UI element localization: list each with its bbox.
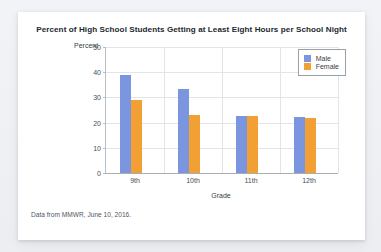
bar-female-10th[interactable] — [189, 115, 200, 173]
bar-group: 10th — [164, 47, 222, 173]
chart-legend: Male Female — [298, 49, 346, 76]
bar-female-12th[interactable] — [305, 118, 316, 173]
legend-swatch-male-icon — [304, 55, 311, 62]
x-tick-label: 11th — [221, 177, 281, 184]
y-tick-label: 20 — [93, 119, 106, 126]
y-tick-label: 10 — [93, 144, 106, 151]
x-axis-label: Grade — [105, 192, 337, 199]
y-tick-label: 30 — [93, 94, 106, 101]
legend-swatch-female-icon — [304, 63, 311, 70]
chart-card: Percent of High School Students Getting … — [18, 12, 365, 240]
chart-plot-area: Percent 010203040509th10th11th12th Grade… — [32, 42, 352, 202]
bar-male-11th[interactable] — [236, 116, 247, 173]
bar-female-11th[interactable] — [247, 116, 258, 173]
x-tick-label: 12th — [279, 177, 339, 184]
bar-female-9th[interactable] — [131, 100, 142, 173]
legend-item-female[interactable]: Female — [304, 63, 339, 70]
bar-male-9th[interactable] — [120, 75, 131, 173]
bar-group: 9th — [106, 47, 164, 173]
y-tick-label: 40 — [93, 69, 106, 76]
screenshot-root: Percent of High School Students Getting … — [0, 0, 381, 252]
bar-group: 11th — [222, 47, 280, 173]
legend-item-male[interactable]: Male — [304, 55, 339, 62]
legend-label-male: Male — [316, 55, 331, 62]
legend-label-female: Female — [316, 63, 339, 70]
y-tick-label: 0 — [97, 170, 106, 177]
bar-male-10th[interactable] — [178, 89, 189, 173]
x-tick-label: 10th — [163, 177, 223, 184]
y-tick-label: 50 — [93, 44, 106, 51]
source-note: Data from MMWR, June 10, 2016. — [31, 211, 131, 218]
chart-title: Percent of High School Students Getting … — [18, 25, 365, 34]
x-tick-label: 9th — [105, 177, 165, 184]
bar-male-12th[interactable] — [294, 117, 305, 173]
